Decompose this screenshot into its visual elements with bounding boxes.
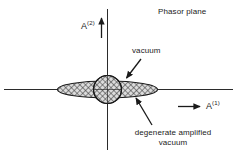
degenerate-amplified-vacuum-annotation-label: degenerate amplified vacuum [118,128,228,148]
figure-title: Phasor plane [158,7,206,17]
x-axis-label-superscript: (1) [212,100,220,106]
y-axis-label: A(2) [81,21,95,31]
vacuum-annotation-label: vacuum [132,46,161,56]
degenerate-label-line-1: degenerate amplified [135,128,212,137]
x-axis-label: A(1) [206,101,220,111]
y-axis-label-superscript: (2) [87,20,95,26]
vacuum-leader-arrow-icon [127,59,142,78]
degenerate-label-line-2: vacuum [118,138,228,148]
phasor-plane-figure: Phasor plane A(2) A(1) vacuum degenerate… [0,0,237,157]
degenerate-leader-arrow-icon [136,98,152,125]
